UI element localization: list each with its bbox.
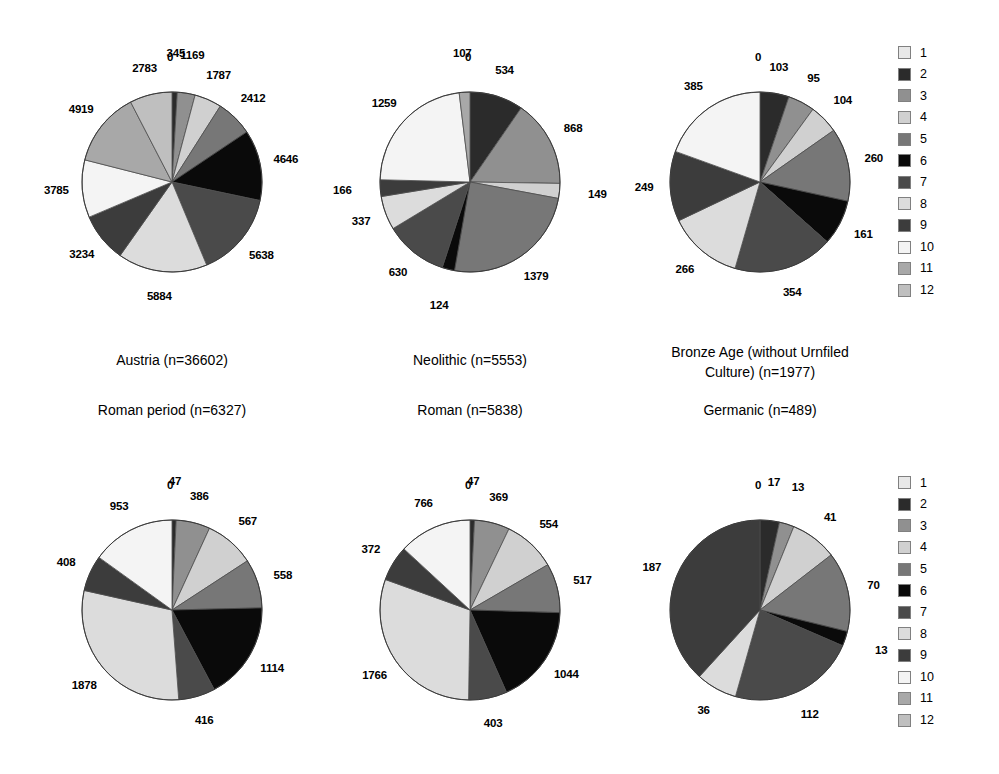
pie-slice-label: 95 (807, 73, 819, 85)
pie-slice-label: 17 (768, 477, 780, 489)
legend-label: 11 (920, 692, 933, 705)
legend-swatch-icon (898, 671, 911, 684)
pie-slice-label: 266 (676, 265, 695, 277)
pie-slice-label: 1259 (372, 98, 397, 110)
pie-chart-roman-period (80, 518, 264, 702)
pie-chart-austria (80, 90, 264, 274)
pie-slice-label: 36 (697, 706, 709, 718)
legend-item-5[interactable]: 5 (898, 128, 934, 150)
chart-caption-roman-period: Roman period (n=6327) (42, 400, 302, 420)
pie-slice-label: 558 (273, 570, 292, 582)
pie-slice-label: 13 (792, 482, 804, 494)
legend-swatch-icon (898, 68, 911, 81)
legend-swatch-icon (898, 219, 911, 232)
legend-item-4[interactable]: 4 (898, 107, 934, 129)
pie-slice-label: 187 (643, 562, 662, 574)
pie-chart-roman (378, 518, 562, 702)
pie-slice-label: 354 (783, 288, 802, 300)
legend-1: 123456789101112 (898, 42, 934, 301)
legend-item-7[interactable]: 7 (898, 602, 934, 624)
legend-item-2[interactable]: 2 (898, 64, 934, 86)
pie-slice-label: 13 (875, 645, 887, 657)
legend-swatch-icon (898, 692, 911, 705)
legend-item-11[interactable]: 11 (898, 258, 934, 280)
legend-label: 8 (920, 628, 927, 641)
pie-slice-label: 1878 (72, 680, 97, 692)
legend-item-3[interactable]: 3 (898, 85, 934, 107)
chart-caption-neolithic: Neolithic (n=5553) (340, 350, 600, 370)
legend-swatch-icon (898, 46, 911, 59)
legend-label: 6 (920, 585, 927, 598)
pie-slice-label: 517 (573, 576, 592, 588)
legend-label: 3 (920, 90, 927, 103)
pie-slice-label: 4646 (273, 154, 298, 166)
pie-chart-germanic (668, 518, 852, 702)
legend-2: 123456789101112 (898, 472, 934, 731)
pie-slice-label: 1114 (260, 663, 284, 675)
pie-slice-label: 386 (190, 492, 209, 504)
pie-slice-label: 953 (110, 501, 129, 513)
pie-slice-label: 4919 (69, 104, 94, 116)
pie-slice-label: 260 (864, 153, 883, 165)
pie-slice-label: 5638 (249, 250, 274, 262)
legend-item-4[interactable]: 4 (898, 537, 934, 559)
legend-item-6[interactable]: 6 (898, 150, 934, 172)
legend-item-9[interactable]: 9 (898, 645, 934, 667)
legend-label: 1 (920, 477, 927, 490)
pie-slice-label: 166 (333, 185, 352, 197)
legend-label: 12 (920, 284, 934, 297)
pie-slice-label: 1379 (524, 272, 549, 284)
legend-item-1[interactable]: 1 (898, 42, 934, 64)
pie-slice-label: 5884 (147, 292, 172, 304)
pie-slice-label: 161 (854, 229, 873, 241)
pie-slice-label: 372 (362, 544, 381, 556)
legend-item-5[interactable]: 5 (898, 558, 934, 580)
legend-swatch-icon (898, 584, 911, 597)
legend-swatch-icon (898, 133, 911, 146)
legend-swatch-icon (898, 563, 911, 576)
pie-slice-label: 554 (539, 519, 558, 531)
figure-canvas: 0345116917872412464656385884323437854919… (0, 0, 999, 774)
pie-slice-label: 337 (352, 216, 371, 228)
pie-slice-label: 112 (801, 709, 819, 721)
pie-slice-label: 766 (414, 498, 433, 510)
legend-label: 2 (920, 498, 927, 511)
legend-item-2[interactable]: 2 (898, 494, 934, 516)
pie-slice-label: 70 (867, 580, 879, 592)
pie-slice-label: 2412 (241, 93, 266, 105)
legend-swatch-icon (898, 154, 911, 167)
legend-label: 5 (920, 133, 927, 146)
pie-slice-label: 385 (684, 81, 703, 93)
legend-label: 7 (920, 176, 927, 189)
pie-slice-label: 2783 (132, 64, 157, 76)
legend-label: 6 (920, 155, 927, 168)
legend-item-3[interactable]: 3 (898, 515, 934, 537)
legend-item-10[interactable]: 10 (898, 666, 934, 688)
legend-item-9[interactable]: 9 (898, 215, 934, 237)
legend-label: 1 (920, 47, 927, 60)
legend-label: 10 (920, 671, 934, 684)
pie-slice-label: 1766 (362, 670, 387, 682)
legend-swatch-icon (898, 519, 911, 532)
legend-label: 5 (920, 563, 927, 576)
legend-item-11[interactable]: 11 (898, 688, 934, 710)
pie-slice-label: 149 (588, 189, 607, 201)
legend-item-10[interactable]: 10 (898, 236, 934, 258)
pie-slice-label: 369 (489, 492, 508, 504)
pie-slice-label: 3785 (44, 185, 69, 197)
legend-swatch-icon (898, 714, 911, 727)
legend-item-7[interactable]: 7 (898, 172, 934, 194)
legend-label: 4 (920, 111, 927, 124)
legend-item-12[interactable]: 12 (898, 710, 934, 732)
chart-caption-germanic: Germanic (n=489) (630, 400, 890, 420)
pie-slice-label: 47 (467, 476, 479, 488)
pie-slice-label: 416 (195, 716, 214, 728)
legend-item-6[interactable]: 6 (898, 580, 934, 602)
pie-slice-label: 104 (833, 95, 852, 107)
legend-label: 3 (920, 520, 927, 533)
legend-item-8[interactable]: 8 (898, 623, 934, 645)
legend-item-8[interactable]: 8 (898, 193, 934, 215)
pie-slice-label: 567 (238, 516, 257, 528)
legend-item-1[interactable]: 1 (898, 472, 934, 494)
legend-item-12[interactable]: 12 (898, 280, 934, 302)
